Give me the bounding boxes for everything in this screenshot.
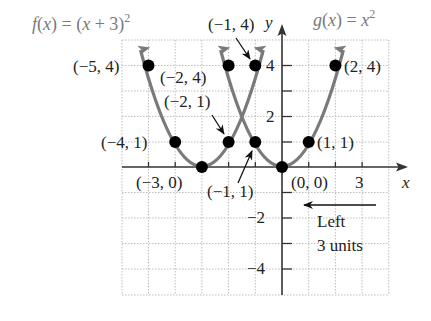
- point-m1-4: [249, 60, 261, 72]
- x-axis-label: x: [401, 173, 410, 192]
- label-0-0: (0, 0): [291, 173, 328, 192]
- label-m1-4: (−1, 4): [208, 15, 254, 34]
- point-m1-1: [249, 136, 261, 148]
- point-1-1: [303, 136, 315, 148]
- annotation-line2: 3 units: [317, 236, 363, 255]
- point-m4-1: [169, 136, 181, 148]
- x-tick-3: 3: [355, 173, 364, 192]
- label-2-4: (2, 4): [344, 57, 381, 76]
- label-1-1: (1, 1): [317, 133, 354, 152]
- y-tick-neg4: −4: [247, 259, 266, 278]
- label-m2-1: (−2, 1): [164, 92, 210, 111]
- point-m2-4: [223, 60, 235, 72]
- y-tick-4: 4: [266, 56, 275, 75]
- equation-f: f(x) = (x + 3)2: [32, 11, 130, 35]
- y-tick-neg2: −2: [247, 208, 265, 227]
- parabola-shift-graph: f(x) = (x + 3)2 g(x) = x2 f(x) = (x + 3)…: [0, 0, 431, 321]
- point-2-4: [329, 60, 341, 72]
- y-axis-label: y: [263, 13, 273, 32]
- point-m3-0: [196, 161, 208, 173]
- point-m2-1: [223, 136, 235, 148]
- equation-g: g(x) = x2: [313, 7, 375, 31]
- arrow-m1-4-pointer-icon: [236, 38, 250, 59]
- y-tick-2: 2: [266, 107, 275, 126]
- point-0-0: [276, 161, 288, 173]
- point-m5-4: [143, 60, 155, 72]
- label-m2-4: (−2, 4): [160, 68, 206, 87]
- label-m1-1: (−1, 1): [207, 182, 253, 201]
- arrow-m2-1-pointer-icon: [212, 115, 224, 134]
- label-m4-1: (−4, 1): [101, 133, 147, 152]
- label-m5-4: (−5, 4): [73, 57, 119, 76]
- label-m3-0: (−3, 0): [136, 173, 182, 192]
- annotation-line1: Left: [317, 212, 346, 231]
